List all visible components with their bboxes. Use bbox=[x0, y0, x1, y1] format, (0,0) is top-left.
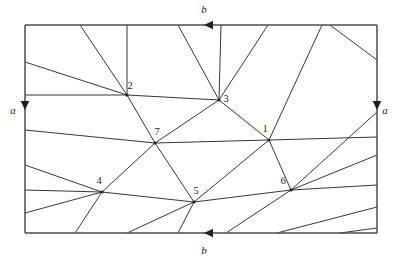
left-edge-arrow bbox=[21, 101, 30, 110]
bottom-edge-label: b bbox=[201, 244, 207, 256]
seg-1-top-right bbox=[269, 25, 322, 140]
seg-6-right-mid bbox=[291, 155, 377, 190]
seg-4-5 bbox=[102, 192, 194, 202]
bottom-edge-arrow bbox=[204, 229, 213, 238]
vertex-label-4: 4 bbox=[96, 175, 102, 186]
seg-2-3 bbox=[127, 95, 219, 100]
right-edge-label: a bbox=[382, 104, 388, 116]
boundary-arrows bbox=[21, 21, 382, 238]
vertex-label-1: 1 bbox=[262, 123, 267, 134]
top-edge-arrow bbox=[204, 21, 213, 30]
seg-4-left-mid bbox=[25, 190, 102, 192]
seg-3-top-left bbox=[178, 25, 219, 100]
seg-6-right-upper bbox=[291, 112, 377, 190]
vertex-label-2: 2 bbox=[127, 80, 132, 91]
seg-5-1 bbox=[194, 140, 269, 202]
vertex-dot-7 bbox=[153, 141, 156, 144]
seg-7-5 bbox=[155, 143, 194, 202]
seg-1-right bbox=[269, 137, 377, 140]
vertex-dot-3 bbox=[217, 98, 220, 101]
right-edge-arrow bbox=[373, 101, 382, 110]
torus-triangulation-figure: 1234567 baab bbox=[0, 0, 400, 263]
vertex-dot-4 bbox=[100, 190, 103, 193]
vertex-dot-5 bbox=[192, 200, 195, 203]
vertex-label-5: 5 bbox=[193, 185, 198, 196]
interior-edges bbox=[25, 25, 377, 233]
seg-5-bottom-mid bbox=[178, 202, 194, 233]
vertex-label-3: 3 bbox=[223, 93, 228, 104]
seg-6-right-lower bbox=[291, 185, 377, 190]
vertex-label-7: 7 bbox=[154, 126, 159, 137]
seg-2-left-upper bbox=[25, 62, 127, 95]
seg-3-7 bbox=[155, 100, 219, 143]
seg-bottom-right-a bbox=[277, 207, 377, 233]
vertex-dot-2 bbox=[125, 93, 128, 96]
seg-3-top-vertical bbox=[219, 25, 221, 100]
seg-2-7 bbox=[127, 95, 155, 143]
seg-2-top-diag bbox=[80, 25, 127, 95]
figure-container: 1234567 baab bbox=[0, 0, 400, 263]
seg-3-top-right bbox=[219, 25, 268, 100]
seg-5-bottom-left bbox=[127, 202, 194, 233]
seg-right-top-diag bbox=[330, 25, 377, 60]
seg-5-6 bbox=[194, 190, 291, 202]
vertex-dot-1 bbox=[267, 138, 270, 141]
top-edge-label: b bbox=[201, 3, 207, 15]
vertex-labels: 1234567 bbox=[96, 80, 285, 196]
vertex-dot-6 bbox=[289, 188, 292, 191]
seg-4-left-upper bbox=[25, 165, 102, 192]
seg-3-1 bbox=[219, 100, 269, 140]
seg-7-4 bbox=[102, 143, 155, 192]
edge-identification-labels: baab bbox=[10, 3, 388, 256]
left-edge-label: a bbox=[10, 104, 16, 116]
boundary-rectangle bbox=[25, 25, 377, 233]
seg-7-left bbox=[25, 130, 155, 143]
vertex-label-6: 6 bbox=[280, 175, 285, 186]
seg-7-1 bbox=[155, 140, 269, 143]
